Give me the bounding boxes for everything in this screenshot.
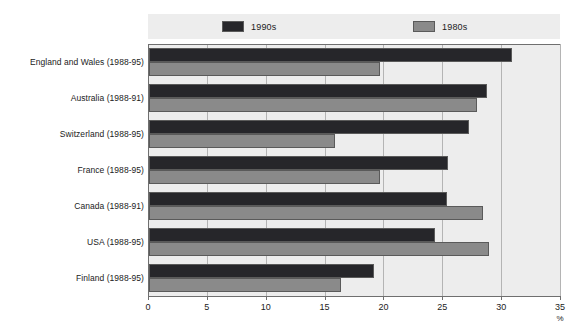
legend-swatch-1980s xyxy=(413,21,435,32)
x-axis-tick-mark xyxy=(442,296,443,300)
x-axis-tick-mark xyxy=(560,296,561,300)
y-axis-category-label: Australia (1988-91) xyxy=(2,93,144,103)
bar-1980s-5[interactable] xyxy=(149,242,489,256)
x-axis-tick-label: 35 xyxy=(555,302,565,312)
y-axis-line xyxy=(148,44,149,297)
legend-item-1990s[interactable]: 1990s xyxy=(222,18,277,35)
bar-chart: 1990s 1980s 05101520253035 % England and… xyxy=(0,0,583,335)
bar-1980s-4[interactable] xyxy=(149,206,483,220)
plot-top-border xyxy=(148,44,560,45)
gridline xyxy=(501,44,502,297)
bar-1980s-6[interactable] xyxy=(149,278,341,292)
legend-item-1980s[interactable]: 1980s xyxy=(413,18,468,35)
x-axis-tick-label: 15 xyxy=(320,302,330,312)
y-axis-category-label: France (1988-95) xyxy=(2,165,144,175)
x-axis-tick-mark xyxy=(266,296,267,300)
legend-swatch-1990s xyxy=(222,21,244,32)
legend-label-1990s: 1990s xyxy=(251,22,277,32)
x-axis-tick-label: 25 xyxy=(437,302,447,312)
bar-1990s-0[interactable] xyxy=(149,48,512,62)
bar-1990s-2[interactable] xyxy=(149,120,469,134)
y-axis-category-label: USA (1988-95) xyxy=(2,237,144,247)
bar-1990s-6[interactable] xyxy=(149,264,374,278)
bar-1990s-3[interactable] xyxy=(149,156,448,170)
legend-label-1980s: 1980s xyxy=(442,22,468,32)
gridline xyxy=(560,44,561,297)
y-axis-category-labels: England and Wales (1988-95)Australia (19… xyxy=(0,0,144,335)
x-axis-tick-label: 30 xyxy=(496,302,506,312)
x-axis-tick-mark xyxy=(383,296,384,300)
y-axis-category-label: Finland (1988-95) xyxy=(2,273,144,283)
x-axis-tick-mark xyxy=(325,296,326,300)
bar-1990s-4[interactable] xyxy=(149,192,447,206)
x-axis-tick-mark xyxy=(148,296,149,300)
x-axis-tick-label: 0 xyxy=(145,302,150,312)
bar-1980s-3[interactable] xyxy=(149,170,380,184)
x-axis-unit-label: % xyxy=(556,314,563,323)
x-axis-tick-label: 10 xyxy=(261,302,271,312)
bar-1990s-5[interactable] xyxy=(149,228,435,242)
chart-legend: 1990s 1980s xyxy=(148,14,560,39)
gridline xyxy=(383,44,384,297)
y-axis-category-label: Switzerland (1988-95) xyxy=(2,129,144,139)
x-axis-tick-mark xyxy=(501,296,502,300)
bar-1980s-2[interactable] xyxy=(149,134,335,148)
x-axis-tick-label: 5 xyxy=(204,302,209,312)
x-axis-tick-mark xyxy=(207,296,208,300)
bar-1980s-0[interactable] xyxy=(149,62,380,76)
x-axis-tick-label: 20 xyxy=(378,302,388,312)
gridline xyxy=(442,44,443,297)
x-axis-line xyxy=(148,296,560,297)
y-axis-category-label: Canada (1988-91) xyxy=(2,201,144,211)
y-axis-category-label: England and Wales (1988-95) xyxy=(2,57,144,67)
bar-1980s-1[interactable] xyxy=(149,98,477,112)
bar-1990s-1[interactable] xyxy=(149,84,487,98)
